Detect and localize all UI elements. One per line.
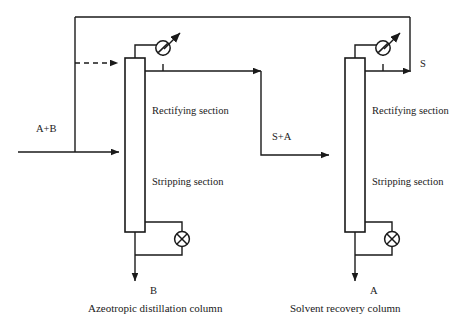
azeotropic-condenser-icon [156,33,180,55]
recovery-reboiler-liquid-draw [355,246,392,255]
reboiler-vapour-return [145,222,182,232]
recovery-reboiler-vapour-return [365,222,392,232]
solvent-recycle-stream-label: S [420,59,426,70]
recovery-rectifying-section-label: Rectifying section [372,106,449,117]
recovery-column-body [345,58,365,232]
feed-stream-label: A+B [36,124,57,135]
recovery-condenser-icon [376,33,400,55]
recovery-bottoms-product-label: A [370,286,378,297]
azeotropic-column-body [125,58,145,232]
reboiler-liquid-draw [135,246,182,255]
azeotropic-stripping-section-label: Stripping section [152,177,223,188]
intermediate-stream-label: S+A [272,132,291,143]
azeotropic-column-caption: Azeotropic distillation column [88,303,222,314]
azeotropic-reboiler-icon [175,232,190,247]
recovery-stripping-section-label: Stripping section [372,177,443,188]
flowsheet-canvas [0,0,472,324]
recovery-reboiler-icon [385,232,400,247]
azeotropic-bottoms-product-label: B [150,286,157,297]
azeotropic-rectifying-section-label: Rectifying section [152,106,229,117]
recovery-column-caption: Solvent recovery column [290,303,401,314]
azeotropic-condenser-assembly [135,45,261,71]
process-flow-diagram: A+B S+A S Rectifying section Stripping s… [0,0,472,324]
